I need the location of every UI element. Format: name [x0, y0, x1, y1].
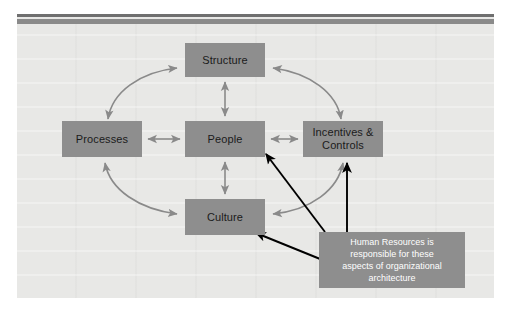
- node-structure[interactable]: Structure: [185, 43, 265, 77]
- node-incentives-label-line1: Incentives &: [312, 126, 373, 138]
- node-people-label: People: [208, 133, 243, 146]
- callout-line-3: aspects of organizational: [342, 261, 442, 271]
- node-people[interactable]: People: [185, 121, 265, 157]
- callout-human-resources[interactable]: Human Resources is responsible for these…: [319, 232, 465, 288]
- node-incentives[interactable]: Incentives & Controls: [303, 121, 383, 157]
- header-rule-top: [17, 14, 494, 17]
- callout-line-2: responsible for these: [350, 249, 434, 259]
- callout-line-1: Human Resources is: [350, 237, 434, 247]
- node-processes-label: Processes: [76, 133, 128, 146]
- node-processes[interactable]: Processes: [62, 121, 142, 157]
- node-incentives-label-line2: Controls: [322, 139, 364, 151]
- node-structure-label: Structure: [202, 54, 248, 67]
- node-culture-label: Culture: [207, 211, 243, 224]
- header-rule-bottom: [17, 19, 494, 24]
- node-incentives-label: Incentives & Controls: [312, 126, 373, 152]
- callout-line-4: architecture: [368, 273, 415, 283]
- figure-organizational-architecture: Structure Processes People Incentives & …: [0, 0, 511, 322]
- callout-text: Human Resources is responsible for these…: [342, 236, 442, 284]
- node-culture[interactable]: Culture: [185, 199, 265, 235]
